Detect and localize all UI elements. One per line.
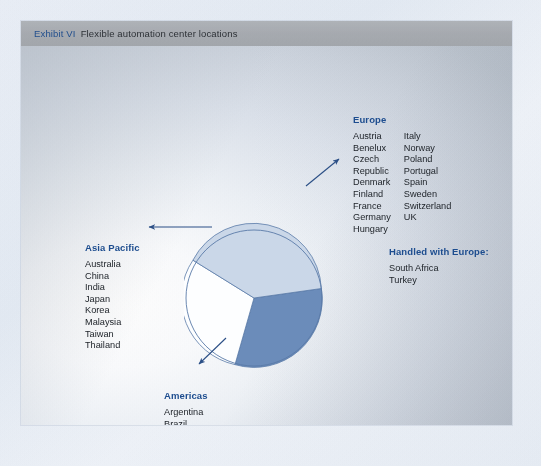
- list-item: Spain: [404, 177, 452, 189]
- list-item: Australia: [85, 259, 140, 271]
- list-item: Taiwan: [85, 329, 140, 341]
- americas-heading: Americas: [164, 390, 208, 401]
- list-item: Thailand: [85, 340, 140, 352]
- list-item: Poland: [404, 154, 452, 166]
- list-item: Germany: [353, 212, 391, 224]
- list-item: Turkey: [389, 275, 489, 287]
- pie-chart: [184, 212, 324, 388]
- asia-pacific-country-list: Australia China India Japan Korea Malays…: [85, 259, 140, 352]
- europe-heading: Europe: [353, 114, 451, 125]
- exhibit-title: Flexible automation center locations: [81, 28, 238, 39]
- list-item: Portugal: [404, 166, 452, 178]
- europe-country-list-col1: Austria Benelux Czech Republic Denmark F…: [353, 131, 391, 235]
- exhibit-header: Exhibit VI Flexible automation center lo…: [21, 21, 512, 46]
- list-item: Austria: [353, 131, 391, 143]
- europe-region-block: Europe Austria Benelux Czech Republic De…: [353, 114, 451, 235]
- europe-arrow: [306, 159, 339, 186]
- americas-region-block: Americas Argentina Brazil Canada Mexico …: [164, 390, 208, 425]
- asia-pacific-region-block: Asia Pacific Australia China India Japan…: [85, 242, 140, 352]
- list-item: Switzerland: [404, 201, 452, 213]
- exhibit-card: Exhibit VI Flexible automation center lo…: [21, 21, 512, 425]
- handled-with-europe-block: Handled with Europe: South Africa Turkey: [389, 246, 489, 286]
- list-item: Korea: [85, 305, 140, 317]
- list-item: Norway: [404, 143, 452, 155]
- list-item: Malaysia: [85, 317, 140, 329]
- list-item: Argentina: [164, 407, 208, 419]
- handled-with-europe-list: South Africa Turkey: [389, 263, 489, 286]
- exhibit-page: Exhibit VI Flexible automation center lo…: [0, 0, 541, 466]
- list-item: Denmark: [353, 177, 391, 189]
- list-item: Italy: [404, 131, 452, 143]
- list-item: Sweden: [404, 189, 452, 201]
- list-item: Republic: [353, 166, 391, 178]
- list-item: UK: [404, 212, 452, 224]
- exhibit-body: Europe Austria Benelux Czech Republic De…: [21, 46, 512, 425]
- list-item: Brazil: [164, 419, 208, 425]
- list-item: Finland: [353, 189, 391, 201]
- pie-chart-svg: [184, 212, 324, 388]
- list-item: Hungary: [353, 224, 391, 236]
- list-item: China: [85, 271, 140, 283]
- list-item: France: [353, 201, 391, 213]
- handled-with-europe-heading: Handled with Europe:: [389, 246, 489, 257]
- exhibit-number: Exhibit VI: [34, 28, 76, 39]
- list-item: Japan: [85, 294, 140, 306]
- americas-country-list: Argentina Brazil Canada Mexico USA: [164, 407, 208, 425]
- list-item: Benelux: [353, 143, 391, 155]
- list-item: South Africa: [389, 263, 489, 275]
- asia-pacific-heading: Asia Pacific: [85, 242, 140, 253]
- list-item: India: [85, 282, 140, 294]
- europe-country-list-col2: Italy Norway Poland Portugal Spain Swede…: [404, 131, 452, 224]
- list-item: Czech: [353, 154, 391, 166]
